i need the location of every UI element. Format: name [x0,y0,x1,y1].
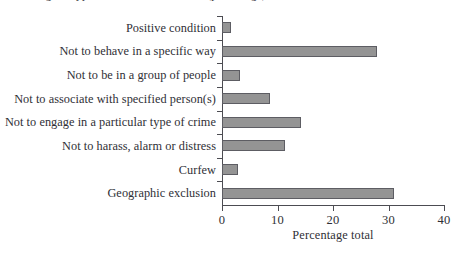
bar [222,46,377,57]
category-axis-label: Not to be in a group of people [67,69,216,81]
bar-row [222,164,444,175]
bar [222,70,240,81]
bar-chart-figure: Figure: types of conditions attached (pe… [0,0,475,253]
category-axis-label: Geographic exclusion [107,187,216,199]
category-axis-tick [217,87,222,88]
clipped-figure-title: Figure: types of conditions attached (pe… [36,0,436,2]
category-axis-tick [217,16,222,17]
value-axis-tick-label: 40 [437,213,450,228]
bar-row [222,117,444,128]
value-axis-tick [333,206,334,211]
value-axis-tick-label: 20 [326,213,339,228]
value-axis-tick-label: 30 [382,213,395,228]
category-axis-label: Not to engage in a particular type of cr… [5,116,216,128]
bar [222,164,238,175]
bar-row [222,188,444,199]
bar [222,93,270,104]
bar-row [222,46,444,57]
category-axis-label: Not to behave in a specific way [59,45,216,57]
category-axis-tick [217,63,222,64]
category-axis-labels: Positive conditionNot to behave in a spe… [0,16,216,205]
plot-area: 010203040 [222,16,444,205]
value-axis-tick [278,206,279,211]
bar [222,22,231,33]
category-axis-label: Not to harass, alarm or distress [62,140,216,152]
category-axis-tick [217,111,222,112]
category-axis-label: Positive condition [126,22,216,34]
category-axis-line [222,16,223,205]
value-axis-tick [444,206,445,211]
bar-row [222,93,444,104]
category-axis-tick [217,134,222,135]
category-axis-tick [217,40,222,41]
bar [222,117,301,128]
value-axis-tick-label: 10 [271,213,284,228]
value-axis-tick [222,206,223,211]
category-axis-label: Curfew [179,163,216,175]
value-axis-tick [389,206,390,211]
bar [222,188,394,199]
category-axis-tick [217,181,222,182]
bar-row [222,70,444,81]
bar-row [222,140,444,151]
bar [222,140,285,151]
bar-row [222,22,444,33]
x-axis-title: Percentage total [222,228,444,243]
category-axis-tick [217,158,222,159]
category-axis-label: Not to associate with specified person(s… [14,93,216,105]
value-axis-tick-label: 0 [219,213,226,228]
